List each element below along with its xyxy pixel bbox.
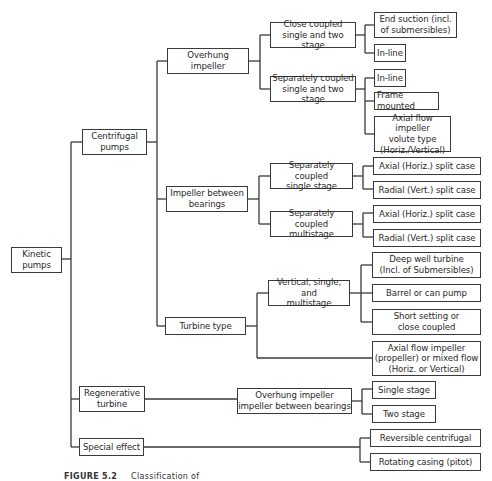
node-centrifugal-pumps: Centrifugal pumps xyxy=(82,129,147,155)
node-impeller-between-bearings: Impeller between bearings xyxy=(166,186,248,212)
leaf-axial-split-case-multi: Axial (Horiz.) split case xyxy=(373,205,481,223)
leaf-radial-split-case-multi: Radial (Vert.) split case xyxy=(373,229,481,247)
node-kinetic-pumps: Kinetic pumps xyxy=(11,247,62,273)
leaf-reversible-centrifugal: Reversible centrifugal xyxy=(370,429,481,447)
leaf-two-stage: Two stage xyxy=(372,405,436,423)
leaf-barrel-can-pump: Barrel or can pump xyxy=(372,284,481,302)
node-special-effect: Special effect xyxy=(79,438,144,456)
leaf-end-suction: End suction (incl. of submersibles) xyxy=(374,12,457,38)
pump-classification-diagram: Kinetic pumps Centrifugal pumps Regenera… xyxy=(0,0,492,481)
leaf-frame-mounted: Frame mounted xyxy=(374,92,439,110)
leaf-axial-flow-volute: Axial flow impeller volute type (Horiz./… xyxy=(374,116,451,152)
leaf-radial-split-case-single: Radial (Vert.) split case xyxy=(373,181,481,199)
figure-number: FIGURE 5.2 xyxy=(64,472,117,481)
leaf-rotating-casing: Rotating casing (pitot) xyxy=(370,453,481,471)
leaf-axial-flow-propeller: Axial flow impeller (propeller) or mixed… xyxy=(372,341,481,376)
node-separately-coupled-single-stage: Separately coupled single stage xyxy=(270,163,353,189)
figure-caption-text: Classification of xyxy=(131,472,199,481)
node-separately-coupled-single-two-stage: Separately coupled single and two stage xyxy=(270,76,356,102)
node-separately-coupled-multistage: Separately coupled multistage xyxy=(270,211,353,237)
leaf-in-line-separately-coupled: In-line xyxy=(374,69,406,87)
node-vertical-single-multistage: Vertical, single, and multistage xyxy=(268,280,350,306)
leaf-deep-well-turbine: Deep well turbine (Incl. of Submersibles… xyxy=(372,252,481,278)
node-close-coupled: Close coupled single and two stage xyxy=(270,22,356,48)
node-regenerative-turbine: Regenerative turbine xyxy=(79,386,145,412)
leaf-axial-split-case-single: Axial (Horiz.) split case xyxy=(373,157,481,175)
node-turbine-type: Turbine type xyxy=(165,317,246,335)
leaf-in-line-close-coupled: In-line xyxy=(374,44,406,62)
node-overhung-impeller: Overhung impeller xyxy=(167,48,249,74)
node-overhung-between-bearings: Overhung impeller impeller between beari… xyxy=(237,388,352,414)
leaf-short-setting: Short setting or close coupled xyxy=(372,309,481,335)
figure-caption: FIGURE 5.2Classification of xyxy=(64,472,199,481)
leaf-single-stage: Single stage xyxy=(372,381,436,399)
